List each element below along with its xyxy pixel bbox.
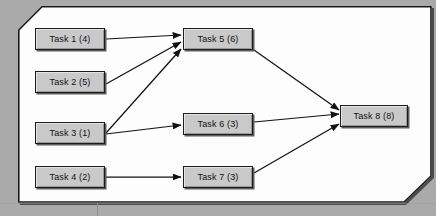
task-node-label: Task 6 (3) xyxy=(197,119,238,129)
task-node-task6[interactable]: Task 6 (3) xyxy=(183,113,253,135)
edge-task2-task5 xyxy=(106,42,181,84)
edge-task1-task5 xyxy=(106,35,181,39)
edge-task3-task6 xyxy=(106,125,181,134)
task-node-label: Task 8 (8) xyxy=(353,111,394,121)
task-node-label: Task 2 (5) xyxy=(49,77,90,87)
edge-task6-task8 xyxy=(254,114,339,122)
edge-task5-task8 xyxy=(254,50,339,110)
task-node-task1[interactable]: Task 1 (4) xyxy=(35,28,105,50)
task-node-label: Task 7 (3) xyxy=(197,172,238,182)
task-node-task5[interactable]: Task 5 (6) xyxy=(183,28,253,50)
task-node-task4[interactable]: Task 4 (2) xyxy=(35,166,105,188)
task-node-label: Task 3 (1) xyxy=(49,128,90,138)
task-node-label: Task 4 (2) xyxy=(49,172,90,182)
edge-task7-task8 xyxy=(254,124,339,173)
task-node-task8[interactable]: Task 8 (8) xyxy=(340,105,408,127)
task-node-label: Task 5 (6) xyxy=(197,34,238,44)
task-node-task7[interactable]: Task 7 (3) xyxy=(183,166,253,188)
edge-task3-task5 xyxy=(106,49,181,133)
task-node-task3[interactable]: Task 3 (1) xyxy=(35,122,105,144)
task-node-task2[interactable]: Task 2 (5) xyxy=(35,71,105,93)
task-node-label: Task 1 (4) xyxy=(49,34,90,44)
